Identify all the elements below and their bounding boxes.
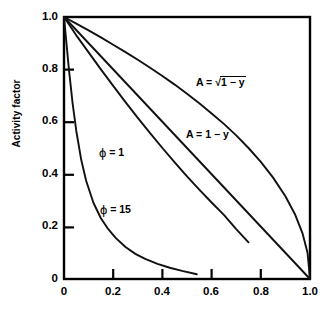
annotation-sqrt-prefix: A = bbox=[196, 76, 215, 88]
activity-factor-chart: Activity factor 1.0 0.8 0.6 0.4 0.2 0 0 … bbox=[0, 0, 325, 314]
plot-area bbox=[0, 0, 325, 314]
annotation-sqrt-radicand: 1 − y bbox=[220, 76, 246, 88]
x-axis-ticks bbox=[113, 269, 261, 279]
phi-symbol-icon: ϕ bbox=[99, 145, 106, 160]
y-axis-ticks bbox=[64, 70, 74, 228]
annotation-sqrt-curve: A = √1 − y bbox=[196, 76, 246, 88]
annotation-phi-1: ϕ = 1 bbox=[99, 145, 124, 158]
phi-symbol-icon-2: ϕ bbox=[100, 202, 107, 217]
annotation-phi-15-value: = 15 bbox=[107, 203, 131, 215]
annotation-phi-1-value: = 1 bbox=[106, 146, 124, 158]
annotation-phi-15: ϕ = 15 bbox=[100, 202, 131, 215]
annotation-linear-curve: A = 1 − y bbox=[186, 129, 229, 140]
